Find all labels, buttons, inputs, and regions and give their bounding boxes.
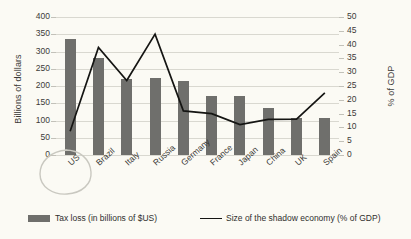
line-series (56, 17, 339, 155)
legend-label-line: Size of the shadow economy (% of GDP) (226, 213, 381, 223)
y-axis-right-tick-mark (339, 141, 344, 142)
y-axis-left-tick-label: 200 (22, 81, 50, 90)
hand-drawn-oval-annotation (37, 146, 97, 198)
y-axis-right-tick-mark (339, 31, 344, 32)
y-axis-left-tick-label: 50 (22, 133, 50, 142)
y-axis-left-tick-label: 300 (22, 47, 50, 56)
plot-area (56, 17, 339, 155)
y-axis-left-tick-label: 350 (22, 29, 50, 38)
y-axis-right-tick-label: 20 (347, 95, 371, 104)
chart-container: Billions of dollars % of GDP 40035030025… (0, 0, 411, 239)
shadow-economy-line (70, 34, 325, 131)
y-axis-right-tick-label: 15 (347, 109, 371, 118)
chart-legend: Tax loss (in billions of $US) Size of th… (0, 211, 411, 231)
y-axis-right-tick-label: 30 (347, 67, 371, 76)
y-axis-right-tick-mark (339, 72, 344, 73)
y-axis-right-tick-label: 5 (347, 136, 371, 145)
y-axis-left-tick-label: 400 (22, 12, 50, 21)
y-axis-right-tick-mark (339, 58, 344, 59)
bar-swatch-icon (28, 215, 50, 222)
y-axis-right-tick-label: 50 (347, 12, 371, 21)
y-axis-right-tick-label: 25 (347, 81, 371, 90)
y-axis-right-tick-mark (339, 45, 344, 46)
y-axis-right-tick-mark (339, 114, 344, 115)
y-axis-right-tick-label: 45 (347, 26, 371, 35)
y-axis-left-tick-label: 150 (22, 98, 50, 107)
y-axis-right-tick-mark (339, 86, 344, 87)
y-axis-right-tick-mark (339, 127, 344, 128)
y-axis-right-tick-label: 40 (347, 40, 371, 49)
legend-item-line: Size of the shadow economy (% of GDP) (200, 213, 381, 223)
y-axis-left-tick-label: 100 (22, 116, 50, 125)
y-axis-right-tick-mark (339, 100, 344, 101)
line-swatch-icon (200, 218, 222, 219)
y-axis-left-tick-label: 250 (22, 64, 50, 73)
y-axis-right-tick-label: 0 (347, 150, 371, 159)
y-axis-right-tick-label: 10 (347, 122, 371, 131)
legend-item-bar: Tax loss (in billions of $US) (28, 213, 157, 223)
y-axis-right-title: % of GDP (386, 46, 396, 126)
y-axis-right-tick-label: 35 (347, 53, 371, 62)
y-axis-right-tick-mark (339, 17, 344, 18)
legend-label-bar: Tax loss (in billions of $US) (55, 213, 157, 223)
